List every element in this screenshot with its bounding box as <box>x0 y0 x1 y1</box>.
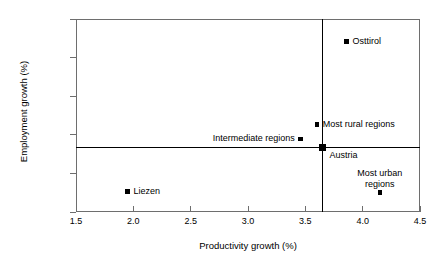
data-point-label: Intermediate regions <box>0 133 295 144</box>
y-tick-mark <box>70 19 76 20</box>
data-point-marker <box>298 137 303 142</box>
x-tick-mark <box>362 206 363 212</box>
y-tick-mark <box>70 173 76 174</box>
x-tick-label: 4.0 <box>343 217 383 226</box>
y-tick-mark <box>70 57 76 58</box>
data-point-label: Most rural regions <box>323 119 395 130</box>
x-tick-mark <box>420 206 421 212</box>
y-tick-mark <box>70 96 76 97</box>
data-point-marker <box>125 189 130 194</box>
scatter-chart: Employment growth (%) Productivity growt… <box>0 0 445 261</box>
data-point-label: Most urban regions <box>349 168 411 189</box>
horizontal-reference-line <box>76 147 420 149</box>
x-tick-label: 3.5 <box>285 217 325 226</box>
x-tick-mark <box>190 206 191 212</box>
data-point-label: Liezen <box>134 186 161 197</box>
vertical-reference-line <box>322 19 324 212</box>
x-tick-mark <box>133 206 134 212</box>
x-tick-mark <box>305 206 306 212</box>
data-point-marker <box>315 122 320 127</box>
x-tick-label: 2.5 <box>171 217 211 226</box>
y-tick-mark <box>70 212 76 213</box>
data-point-label: Osttirol <box>353 36 382 47</box>
y-axis-title: Employment growth (%) <box>18 12 29 212</box>
data-point-marker <box>378 190 383 195</box>
x-tick-label: 2.0 <box>113 217 153 226</box>
x-tick-label: 3.0 <box>228 217 268 226</box>
x-tick-label: 4.5 <box>400 217 440 226</box>
data-point-marker <box>344 39 349 44</box>
x-axis-title: Productivity growth (%) <box>76 240 420 251</box>
x-tick-label: 1.5 <box>56 217 96 226</box>
data-point-marker <box>319 144 327 152</box>
x-tick-mark <box>248 206 249 212</box>
data-point-label: Austria <box>330 150 358 161</box>
